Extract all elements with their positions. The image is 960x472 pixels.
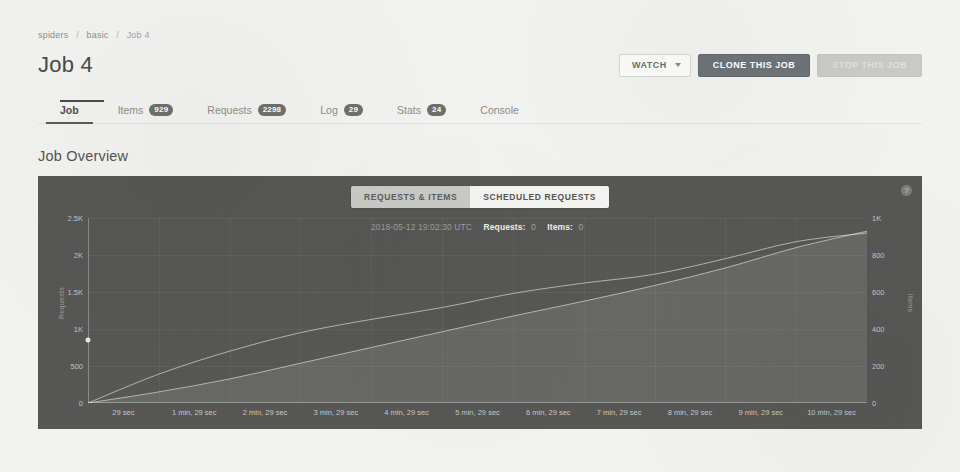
chart-vertical-gridline [655,218,656,403]
chart-tooltip-timestamp: 2018-05-12 19:02:30 UTC [371,222,472,232]
chart-gridline [88,255,867,256]
tab-stats-badge: 24 [427,104,446,116]
tab-items-label: Items [118,104,144,116]
y-axis-left-tick: 2K [74,251,83,260]
watch-button-label: WATCH [632,54,667,77]
chart-tooltip-items-value: 0 [578,222,583,232]
breadcrumb-separator: / [76,30,79,40]
chart-gridline [88,329,867,330]
y-axis-right-tick: 800 [872,251,885,260]
y-axis-left-tick: 2.5K [68,214,83,223]
chart-plot-area: 05001K1.5K2K2.5K02004006008001K29 sec1 m… [88,218,867,403]
x-axis-line [88,402,867,403]
toggle-requests-and-items[interactable]: REQUESTS & ITEMS [351,186,470,208]
y-axis-line [88,218,89,403]
y-axis-right-tick: 200 [872,362,885,371]
tab-console[interactable]: Console [463,104,536,123]
y-axis-left-tick: 500 [70,362,83,371]
x-axis-tick: 2 min, 29 sec [243,408,288,417]
y-axis-left-tick: 1K [74,325,83,334]
chart-hover-marker [86,338,91,343]
stop-job-button: STOP THIS JOB [817,54,922,77]
tab-requests[interactable]: Requests 2298 [190,104,303,123]
y-axis-left-tick: 0 [79,399,83,408]
breadcrumb-item-basic[interactable]: basic [87,30,109,40]
tab-log[interactable]: Log 29 [303,104,380,123]
breadcrumb-item-spiders[interactable]: spiders [38,30,68,40]
header-actions: WATCH CLONE THIS JOB STOP THIS JOB [619,54,922,77]
clone-job-button[interactable]: CLONE THIS JOB [698,54,811,77]
chart-mode-toggle-group: REQUESTS & ITEMS SCHEDULED REQUESTS [351,186,609,208]
chart-vertical-gridline [230,218,231,403]
x-axis-tick: 3 min, 29 sec [314,408,359,417]
x-axis-tick: 6 min, 29 sec [526,408,571,417]
tab-log-badge: 29 [344,104,363,116]
page-container: spiders / basic / Job 4 Job 4 WATCH CLON… [0,0,960,429]
tab-job-label: Job [60,104,79,116]
y-axis-right-tick: 0 [872,399,876,408]
x-axis-tick: 10 min, 29 sec [807,408,856,417]
chart-tooltip-requests-value: 0 [531,222,536,232]
y-axis-right-title: Items [907,293,914,312]
watch-button[interactable]: WATCH [619,54,691,77]
job-overview-chart-panel: REQUESTS & ITEMS SCHEDULED REQUESTS ? 20… [38,176,922,429]
chart-vertical-gridline [159,218,160,403]
chart-vertical-gridline [725,218,726,403]
x-axis-tick: 8 min, 29 sec [668,408,713,417]
tab-items-badge: 929 [149,104,173,116]
breadcrumb-separator: / [116,30,119,40]
help-icon[interactable]: ? [901,185,912,196]
x-axis-tick: 1 min, 29 sec [172,408,217,417]
tab-console-label: Console [480,104,519,116]
chart-gridline [88,292,867,293]
chart-vertical-gridline [300,218,301,403]
tab-stats[interactable]: Stats 24 [380,104,463,123]
chart-vertical-gridline [584,218,585,403]
chart-gridline [88,366,867,367]
x-axis-tick: 5 min, 29 sec [455,408,500,417]
tab-requests-badge: 2298 [258,104,287,116]
breadcrumb: spiders / basic / Job 4 [38,0,922,40]
active-tab-marker [60,100,104,102]
y-axis-right-tick: 600 [872,288,885,297]
chart-vertical-gridline [513,218,514,403]
page-title: Job 4 [38,54,93,76]
toggle-scheduled-requests[interactable]: SCHEDULED REQUESTS [470,186,609,208]
tab-bar: Job Items 929 Requests 2298 Log 29 Stats… [38,94,922,124]
chart-tooltip-items-label: Items: [547,222,573,232]
y-axis-right-tick: 400 [872,325,885,334]
chart-tooltip-requests-label: Requests: [484,222,526,232]
title-row: Job 4 WATCH CLONE THIS JOB STOP THIS JOB [38,49,922,81]
chart-vertical-gridline [796,218,797,403]
y-axis-left-title: Requests [58,287,65,319]
items-area-fill [88,231,867,403]
tab-job[interactable]: Job [38,104,101,123]
chart-svg [88,218,867,403]
tab-requests-label: Requests [207,104,251,116]
chart-gridline [88,218,867,219]
section-title: Job Overview [38,148,922,164]
tab-items[interactable]: Items 929 [101,104,191,123]
y-axis-right-tick: 1K [872,214,881,223]
chart-vertical-gridline [442,218,443,403]
x-axis-tick: 29 sec [112,408,134,417]
chart-vertical-gridline [371,218,372,403]
x-axis-tick: 7 min, 29 sec [597,408,642,417]
tab-stats-label: Stats [397,104,421,116]
x-axis-tick: 4 min, 29 sec [384,408,429,417]
tab-log-label: Log [320,104,338,116]
chart-tooltip: 2018-05-12 19:02:30 UTC Requests: 0 Item… [371,222,583,232]
chevron-down-icon [675,63,681,67]
x-axis-tick: 9 min, 29 sec [738,408,783,417]
y-axis-left-tick: 1.5K [68,288,83,297]
breadcrumb-current: Job 4 [127,30,150,40]
